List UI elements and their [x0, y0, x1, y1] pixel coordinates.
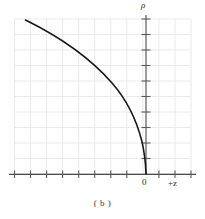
x-axis-label-text: +z: [168, 178, 177, 188]
data-curve-rho: [26, 20, 147, 174]
figure-panel-b: ρ 0 +z ( b ): [0, 0, 205, 219]
y-axis-label: ρ: [141, 1, 145, 10]
figure-caption: ( b ): [0, 198, 205, 208]
x-axis: [9, 171, 196, 179]
x-axis-origin-label: 0: [142, 178, 147, 187]
grid-lines: [15, 19, 192, 174]
x-axis-label: +z: [168, 179, 177, 188]
